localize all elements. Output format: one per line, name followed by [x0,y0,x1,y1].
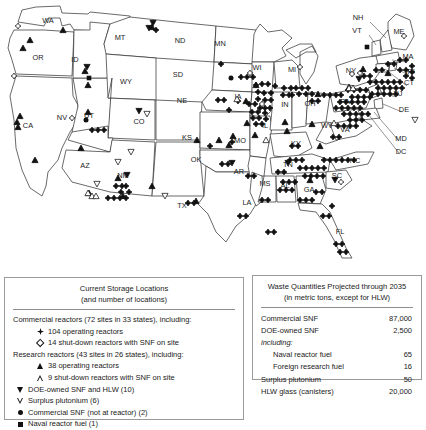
state-CO [156,100,202,140]
state-label-SD: SD [173,70,183,79]
legend-item: 14 shut-down reactors with SNF on site [11,337,237,349]
state-label-WI: WI [252,63,261,72]
quantities-row: Foreign research fuel16 [253,361,421,373]
marker-operating-commercial-reactor [387,85,393,91]
map-svg: WAORCANVIDMTWYUTAZCONMNDSDNEKSOKTXMNIAMO… [0,0,426,268]
state-label-CA: CA [23,121,33,130]
storage-title-line1: Current Storage Locations [11,284,237,295]
legend-item-label: 104 operating reactors [48,326,123,338]
state-label-DE: DE [399,105,409,114]
state-label-ND: ND [175,36,186,45]
legend-item: Commercial SNF (not at reactor) (2) [11,407,237,419]
state-label-MN: MN [214,39,226,48]
marker-operating-commercial-reactor [305,85,311,91]
marker-operating-commercial-reactor [381,91,387,97]
state-label-KS: KS [182,133,192,142]
storage-title-line2: (and number of locations) [11,295,237,306]
state-DE [374,98,383,109]
waste-quantities-table: Commercial SNF87,000DOE-owned SNF2,500in… [253,312,421,397]
state-label-WY: WY [120,77,132,86]
marker-operating-commercial-reactor [381,85,387,91]
state-label-IN: IN [281,100,288,109]
quantities-row-label: including: [253,336,377,348]
marker-operating-commercial-reactor [379,79,385,85]
legend-item: 104 operating reactors [11,326,237,338]
legend-item-label: 14 shut-down reactors with SNF on site [48,337,179,349]
marker-operating-commercial-reactor [111,195,117,201]
storage-panel-title: Current Storage Locations (and number of… [5,278,243,308]
state-AR-n [248,156,266,176]
state-label-VT: VT [352,26,362,35]
quantities-row-label: Surplus plutonium [253,373,377,385]
legend-item: Naval reactor fuel (1) [11,418,237,430]
legend-item: DOE-owned SNF and HLW (10) [11,384,237,396]
marker-surplus-plutonium [412,117,418,123]
quantities-title-line2: (in metric tons, except for HLW) [259,293,415,304]
state-label-NH: NH [353,13,364,22]
marker-operating-commercial-reactor [271,229,277,235]
quantities-row-value: 20,000 [377,385,421,397]
quantities-row-value: 2,500 [377,324,421,336]
state-label-AR: AR [234,167,244,176]
state-label-MD: MD [395,134,407,143]
state-label-MI: MI [288,65,296,74]
waste-quantities-panel: Waste Quantities Projected through 2035 … [252,275,422,380]
quantities-row-value: 87,000 [377,312,421,324]
quantities-row: Commercial SNF87,000 [253,312,421,324]
marker-operating-commercial-reactor [387,91,393,97]
state-label-OR: OR [32,53,43,62]
state-label-CO: CO [133,117,144,126]
marker-operating-research-reactor [78,145,84,151]
state-IN [292,92,308,128]
quantities-row-label: DOE-owned SNF [253,324,377,336]
quantities-row-value [377,336,421,348]
state-label-OK: OK [191,155,202,164]
state-VT [372,40,381,56]
us-map: WAORCANVIDMTWYUTAZCONMNDSDNEKSOKTXMNIAMO… [0,0,426,268]
leader-NH [370,22,386,38]
legend-group-heading-0: Commercial reactors (72 sites in 33 stat… [11,314,237,326]
legend-item-label: DOE-owned SNF and HLW (10) [28,384,134,396]
state-label-DC: DC [396,147,407,156]
marker-shutdown-commercial-reactor [15,23,21,29]
filled-square-icon [13,418,28,430]
legend-item-label: Surplus plutonium (6) [28,395,99,407]
quantities-row-value: 50 [377,373,421,385]
quantities-panel-title: Waste Quantities Projected through 2035 … [253,276,421,306]
filled-circle-icon [13,407,28,419]
quantities-row: including: [253,336,421,348]
marker-operating-commercial-reactor [397,67,403,73]
state-label-LA: LA [242,198,251,207]
quantities-row: HLW glass (canisters)20,000 [253,385,421,397]
quantities-row: Surplus plutonium50 [253,373,421,385]
marker-operating-commercial-reactor [353,111,359,117]
marker-operating-commercial-reactor [329,203,335,209]
quantities-row-value: 16 [377,361,421,373]
quantities-row-label: Foreign research fuel [253,361,377,373]
state-CA [10,76,78,196]
state-label-MS: MS [259,179,270,188]
storage-legend-body: Commercial reactors (72 sites in 33 stat… [5,314,243,430]
marker-operating-commercial-reactor [385,79,391,85]
quantities-title-line1: Waste Quantities Projected through 2035 [259,282,415,293]
legend-item-label: Commercial SNF (not at reactor) (2) [28,407,148,419]
state-label-MO: MO [234,136,246,145]
marker-operating-commercial-reactor [397,79,403,85]
state-label-MT: MT [115,33,126,42]
legend-item-label: Naval reactor fuel (1) [28,418,98,430]
marker-naval-reactor-fuel [365,45,370,50]
state-label-NE: NE [177,96,187,105]
marker-naval-reactor-fuel [87,76,92,81]
quantities-row-label: HLW glass (canisters) [253,385,377,397]
marker-operating-commercial-reactor [265,229,271,235]
state-label-AZ: AZ [80,161,90,170]
legend-item: Surplus plutonium (6) [11,395,237,407]
marker-operating-commercial-reactor [341,111,347,117]
state-NM [152,142,204,196]
legend-group-heading-1: Research reactors (43 sites in 26 states… [11,349,237,361]
quantities-panel-divider [261,307,413,308]
state-label-ID: ID [71,55,78,64]
marker-commercial-snf-not-at-reactor [229,76,234,81]
marker-operating-commercial-reactor [391,79,397,85]
marker-operating-research-reactor [317,143,323,149]
